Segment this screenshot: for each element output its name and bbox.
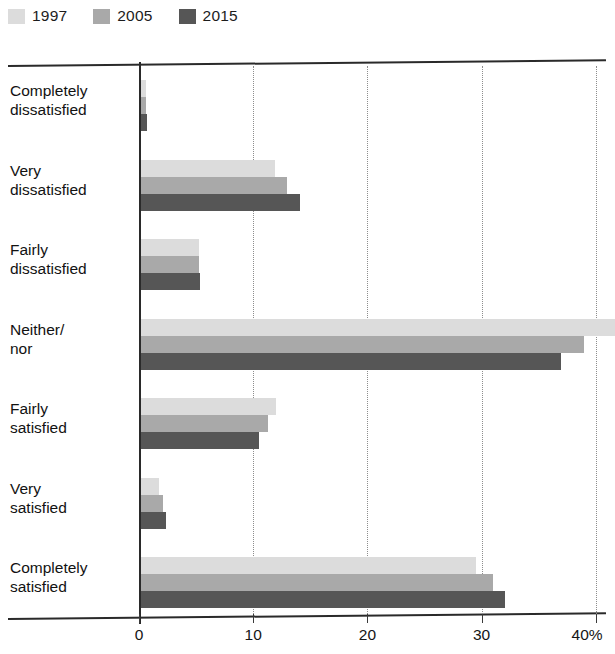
x-tick-40 <box>596 614 597 623</box>
x-tick-30 <box>482 614 483 623</box>
bar-2005 <box>141 336 584 353</box>
bar-1997 <box>141 319 615 336</box>
x-axis-label-10: 10 <box>245 626 262 644</box>
category-label: Completely satisfied <box>10 558 88 596</box>
bar-stack <box>141 319 615 370</box>
bar-2015 <box>141 114 147 131</box>
bar-1997 <box>141 239 199 256</box>
bar-stack <box>141 398 276 449</box>
x-axis-label-30: 30 <box>473 626 490 644</box>
chart-plot-area: Completely dissatisfiedVery dissatisfied… <box>0 62 614 624</box>
category-label: Fairly satisfied <box>10 399 67 437</box>
category-label: Very satisfied <box>10 479 67 517</box>
chart-legend: 1997 2005 2015 <box>8 5 264 27</box>
bar-stack <box>141 557 505 608</box>
x-tick-20 <box>367 614 368 623</box>
bar-group: Completely satisfied <box>0 557 614 608</box>
category-label: Fairly dissatisfied <box>10 240 87 278</box>
legend-item-1997: 1997 <box>8 7 67 25</box>
plot-bottom-border <box>8 612 606 620</box>
bar-1997 <box>141 160 275 177</box>
bar-1997 <box>141 557 476 574</box>
bar-2015 <box>141 353 561 370</box>
bar-group: Very satisfied <box>0 478 614 529</box>
bar-group: Very dissatisfied <box>0 160 614 211</box>
category-label: Completely dissatisfied <box>10 81 88 119</box>
x-tick-0 <box>139 614 140 623</box>
legend-swatch-1997 <box>8 9 25 24</box>
bar-2005 <box>141 97 146 114</box>
bar-1997 <box>141 478 159 495</box>
bar-1997 <box>141 398 276 415</box>
bar-2005 <box>141 256 199 273</box>
bar-2005 <box>141 574 493 591</box>
legend-label-2015: 2015 <box>203 7 238 25</box>
category-label: Neither/ nor <box>10 320 64 358</box>
legend-swatch-2005 <box>93 9 110 24</box>
legend-item-2005: 2005 <box>93 7 152 25</box>
x-tick-10 <box>253 614 254 623</box>
bar-2015 <box>141 512 166 529</box>
bar-2015 <box>141 194 300 211</box>
x-axis-label-20: 20 <box>359 626 376 644</box>
legend-label-2005: 2005 <box>117 7 152 25</box>
bar-group: Completely dissatisfied <box>0 80 614 131</box>
bar-group: Fairly satisfied <box>0 398 614 449</box>
bar-2005 <box>141 495 163 512</box>
legend-label-1997: 1997 <box>32 7 67 25</box>
bar-group: Neither/ nor <box>0 319 614 370</box>
legend-swatch-2015 <box>179 9 196 24</box>
bar-2015 <box>141 432 259 449</box>
bar-stack <box>141 478 166 529</box>
category-label: Very dissatisfied <box>10 161 87 199</box>
legend-item-2015: 2015 <box>179 7 238 25</box>
x-axis-labels: 010203040% <box>0 626 614 654</box>
bar-stack <box>141 160 300 211</box>
bar-2015 <box>141 273 200 290</box>
bar-stack <box>141 80 147 131</box>
bar-1997 <box>141 80 146 97</box>
plot-top-border <box>8 59 606 67</box>
bar-2015 <box>141 591 505 608</box>
bar-2005 <box>141 415 268 432</box>
x-axis-label-0: 0 <box>135 626 144 644</box>
bar-2005 <box>141 177 287 194</box>
bar-stack <box>141 239 200 290</box>
x-axis-label-40: 40% <box>572 626 603 644</box>
bar-group: Fairly dissatisfied <box>0 239 614 290</box>
